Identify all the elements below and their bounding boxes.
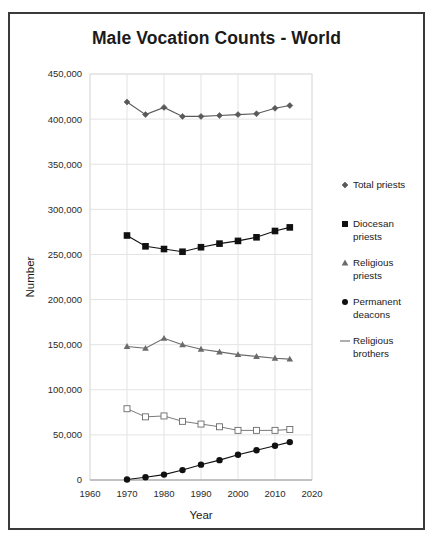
data-point-marker <box>180 113 186 119</box>
y-tick-label: 250,000 <box>48 249 82 260</box>
x-axis-title: Year <box>189 509 212 521</box>
data-point-marker <box>253 447 259 453</box>
line-chart-plot: 050,000100,000150,000200,000250,000300,0… <box>10 14 427 532</box>
chart-frame: Male Vocation Counts - World 050,000100,… <box>8 12 425 530</box>
data-point-marker <box>161 471 167 477</box>
y-axis-title: Number <box>24 256 36 297</box>
data-point-marker <box>179 467 185 473</box>
data-point-marker <box>143 414 149 420</box>
series-line <box>127 442 290 479</box>
legend-item[interactable]: Diocesanpriests <box>342 218 394 242</box>
series-line <box>127 338 290 359</box>
data-point-marker <box>161 246 168 253</box>
data-point-marker <box>198 461 204 467</box>
data-point-marker <box>143 112 149 118</box>
data-point-marker <box>124 343 131 349</box>
legend-label: Religious <box>353 335 393 346</box>
legend-label: priests <box>353 231 382 242</box>
data-point-marker <box>342 182 348 188</box>
data-point-marker <box>142 243 149 250</box>
data-point-marker <box>272 105 278 111</box>
data-point-marker <box>342 299 348 305</box>
legend-item[interactable]: Total priests <box>342 179 405 190</box>
data-point-marker <box>235 452 241 458</box>
y-tick-label: 50,000 <box>53 429 82 440</box>
x-tick-label: 2020 <box>301 488 322 499</box>
data-point-marker <box>217 424 223 430</box>
data-point-marker <box>217 113 223 119</box>
data-point-marker <box>161 104 167 110</box>
data-point-marker <box>198 113 204 119</box>
data-point-marker <box>216 457 222 463</box>
x-tick-label: 1980 <box>153 488 174 499</box>
data-point-marker <box>180 418 186 424</box>
y-tick-label: 0 <box>77 474 82 485</box>
series-line <box>127 409 290 431</box>
legend-label: priests <box>353 270 382 281</box>
data-point-marker <box>235 238 242 245</box>
legend-label: Permanent <box>353 296 401 307</box>
data-point-marker <box>287 426 293 432</box>
y-tick-label: 400,000 <box>48 114 82 125</box>
data-point-marker <box>161 413 167 419</box>
data-point-marker <box>287 224 294 231</box>
y-tick-label: 350,000 <box>48 159 82 170</box>
y-tick-label: 100,000 <box>48 384 82 395</box>
data-point-marker <box>179 248 186 255</box>
data-point-marker <box>253 234 260 241</box>
x-tick-label: 2000 <box>227 488 248 499</box>
data-point-marker <box>161 335 168 341</box>
data-point-marker <box>235 112 241 118</box>
legend-label: deacons <box>353 309 390 320</box>
data-point-marker <box>198 421 204 427</box>
data-point-marker <box>342 221 348 227</box>
data-point-marker <box>235 427 241 433</box>
data-point-marker <box>287 439 293 445</box>
y-tick-label: 450,000 <box>48 68 82 79</box>
x-tick-label: 1970 <box>116 488 137 499</box>
legend-label: Total priests <box>353 179 405 190</box>
data-point-marker <box>124 406 130 412</box>
x-tick-label: 2010 <box>264 488 285 499</box>
legend-label: Religious <box>353 257 393 268</box>
data-point-marker <box>272 443 278 449</box>
data-point-marker <box>342 260 349 266</box>
x-tick-label: 1990 <box>190 488 211 499</box>
x-tick-label: 1960 <box>79 488 100 499</box>
legend-item[interactable]: Religiousbrothers <box>340 335 393 359</box>
y-tick-label: 200,000 <box>48 294 82 305</box>
data-point-marker <box>198 244 205 251</box>
legend-label: Diocesan <box>353 218 394 229</box>
legend-item[interactable]: Religiouspriests <box>342 257 394 281</box>
data-point-marker <box>272 427 278 433</box>
data-point-marker <box>254 427 260 433</box>
data-point-marker <box>142 474 148 480</box>
y-tick-label: 300,000 <box>48 204 82 215</box>
data-point-marker <box>287 103 293 109</box>
data-point-marker <box>216 240 223 247</box>
data-point-marker <box>124 232 131 239</box>
data-point-marker <box>124 476 130 482</box>
data-point-marker <box>254 111 260 117</box>
series-line <box>127 227 290 251</box>
data-point-marker <box>272 228 279 235</box>
data-point-marker <box>124 99 130 105</box>
y-tick-label: 150,000 <box>48 339 82 350</box>
legend-item[interactable]: Permanentdeacons <box>342 296 401 320</box>
series-line <box>127 102 290 116</box>
legend-label: brothers <box>353 348 389 359</box>
